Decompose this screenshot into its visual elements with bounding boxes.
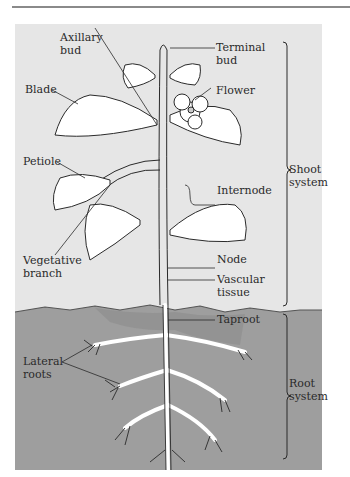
label-line: Vascular	[217, 273, 265, 286]
label-line: Terminal	[216, 41, 265, 54]
label-line: roots	[23, 368, 63, 381]
plant-illustration	[0, 0, 350, 477]
label-vegetative-branch: Vegetative branch	[23, 254, 82, 280]
label-line: Shoot	[289, 163, 328, 176]
label-terminal-bud: Terminal bud	[216, 41, 265, 67]
label-petiole: Petiole	[23, 155, 61, 168]
label-line: bud	[216, 54, 265, 67]
label-line: tissue	[217, 286, 265, 299]
label-axillary-bud: Axillary bud	[60, 31, 103, 57]
label-blade: Blade	[25, 83, 57, 96]
label-line: Axillary	[60, 31, 103, 44]
label-internode: Internode	[217, 184, 272, 197]
label-line: Root	[289, 377, 328, 390]
label-lateral-roots: Lateral roots	[23, 355, 63, 381]
label-line: Vegetative	[23, 254, 82, 267]
label-root-system: Root system	[289, 377, 328, 403]
label-line: bud	[60, 44, 103, 57]
label-shoot-system: Shoot system	[289, 163, 328, 189]
label-line: system	[289, 390, 328, 403]
label-line: Lateral	[23, 355, 63, 368]
label-vascular-tissue: Vascular tissue	[217, 273, 265, 299]
label-line: branch	[23, 267, 82, 280]
label-flower: Flower	[216, 84, 255, 97]
label-taproot: Taproot	[217, 313, 260, 326]
label-line: system	[289, 176, 328, 189]
label-node: Node	[217, 253, 247, 266]
